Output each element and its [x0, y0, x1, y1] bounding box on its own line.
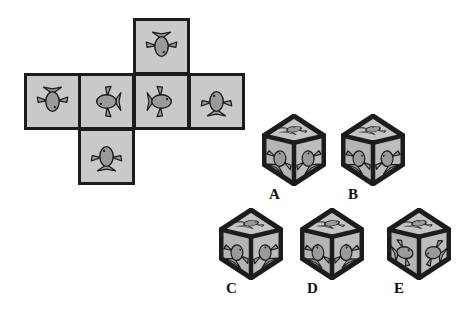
- net-tile-top: [133, 18, 190, 75]
- cube-option-c[interactable]: [219, 208, 283, 280]
- cube-option-label-b: B: [348, 186, 358, 203]
- fish-icon: [27, 76, 78, 127]
- net-tile-row-col-3: [133, 73, 190, 130]
- cube-option-a[interactable]: [262, 114, 326, 186]
- fish-icon: [136, 76, 187, 127]
- fish-icon: [81, 76, 132, 127]
- cube-option-label-e: E: [394, 280, 404, 297]
- cube-option-d[interactable]: [300, 208, 364, 280]
- net-tile-row-col-4: [188, 73, 245, 130]
- cube-option-label-d: D: [307, 280, 318, 297]
- fish-icon: [191, 76, 242, 127]
- fish-icon: [81, 131, 132, 182]
- cube-option-label-c: C: [226, 280, 237, 297]
- net-tile-row-col-1: [24, 73, 81, 130]
- cube-option-b[interactable]: [341, 114, 405, 186]
- fish-icon: [136, 21, 187, 72]
- net-tile-row-col-2: [78, 73, 135, 130]
- net-tile-below-col-2: [78, 128, 135, 185]
- cube-option-label-a: A: [269, 186, 280, 203]
- puzzle-canvas: ABCDE: [0, 0, 475, 312]
- cube-option-e[interactable]: [387, 208, 451, 280]
